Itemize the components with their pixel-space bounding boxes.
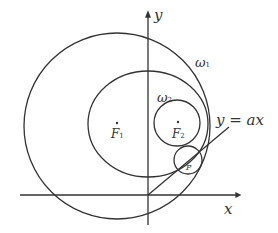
diagram: y x ω1 ω2 y = ax F1 F2 P — [0, 0, 278, 233]
point-f2 — [177, 121, 179, 123]
p-label: P — [186, 164, 191, 172]
omega2-label: ω2 — [157, 91, 172, 104]
x-axis-arrow — [236, 193, 240, 197]
x-axis-label: x — [224, 202, 232, 217]
line-label: y = ax — [216, 113, 264, 128]
y-axis-arrow — [146, 12, 150, 17]
circle-omega1 — [24, 33, 210, 219]
f1-label: F1 — [111, 128, 124, 140]
f2-label: F2 — [172, 128, 185, 140]
point-f1 — [116, 122, 118, 124]
y-axis-label: y — [154, 8, 162, 23]
omega1-label: ω1 — [195, 56, 210, 69]
